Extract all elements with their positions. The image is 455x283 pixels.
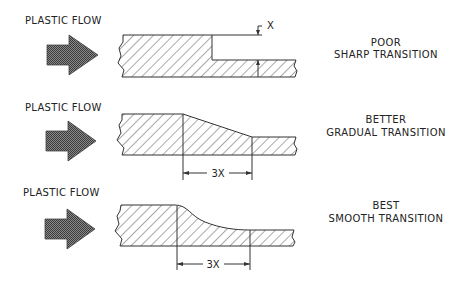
plastic-flow-label: PLASTIC FLOW [25,102,102,113]
smooth-transition-part [115,205,295,270]
rating-label: BEST [372,200,400,211]
rating-label: POOR [371,37,401,48]
row-better-gradual: PLASTIC FLOW 3X BETTER GRADUAL TRANSITIO… [25,102,446,180]
plastic-flow-label: PLASTIC FLOW [23,187,100,198]
flow-arrow-icon [47,35,98,75]
plastic-flow-diagram: PLASTIC FLOW X POOR SHARP TRANSITION PLA… [0,0,455,283]
gradual-transition-part [117,114,297,180]
transition-label: GRADUAL TRANSITION [326,127,446,138]
dimension-3x-label: 3X [211,168,224,179]
dimension-x-label: X [267,20,274,31]
rating-label: BETTER [366,114,407,125]
transition-label: SHARP TRANSITION [334,49,438,60]
row-best-smooth: PLASTIC FLOW 3X BEST SMOOTH TRANSITION [23,187,444,270]
plastic-flow-label: PLASTIC FLOW [25,15,102,26]
dimension-3x-label: 3X [206,259,219,270]
sharp-transition-part [118,26,297,77]
flow-arrow-icon [45,209,95,249]
row-poor-sharp: PLASTIC FLOW X POOR SHARP TRANSITION [25,15,438,77]
transition-label: SMOOTH TRANSITION [328,213,443,224]
flow-arrow-icon [46,121,96,161]
